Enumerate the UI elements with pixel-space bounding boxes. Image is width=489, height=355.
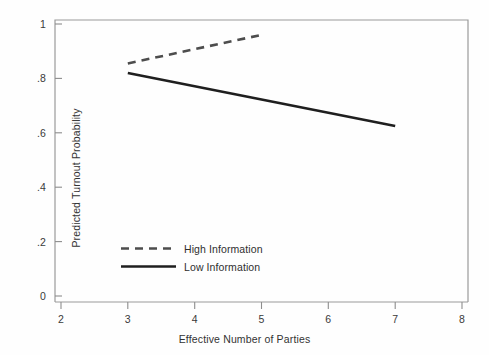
x-tick-label-6: 6 bbox=[325, 313, 331, 325]
y-tick-label-0: 0 bbox=[28, 290, 46, 302]
chart-figure: 1 .8 .6 .4 .2 0 2 3 4 5 6 7 8 Effective … bbox=[0, 0, 489, 355]
x-axis-title: Effective Number of Parties bbox=[0, 333, 489, 345]
y-axis-ticks bbox=[55, 24, 62, 296]
y-tick-label-06: .6 bbox=[28, 127, 46, 139]
x-tick-label-7: 7 bbox=[392, 313, 398, 325]
series-line-low-information bbox=[128, 73, 395, 126]
y-tick-label-1: 1 bbox=[28, 18, 46, 30]
y-tick-label-08: .8 bbox=[28, 72, 46, 84]
x-tick-label-4: 4 bbox=[192, 313, 198, 325]
x-tick-label-3: 3 bbox=[125, 313, 131, 325]
plot-frame bbox=[55, 20, 468, 302]
y-axis-title: Predicted Turnout Probability bbox=[70, 108, 82, 247]
x-tick-label-8: 8 bbox=[459, 313, 465, 325]
legend-label-high-information: High Information bbox=[184, 243, 263, 255]
y-tick-label-04: .4 bbox=[28, 181, 46, 193]
y-tick-label-02: .2 bbox=[28, 236, 46, 248]
legend-label-low-information: Low Information bbox=[184, 261, 260, 273]
series-line-high-information bbox=[128, 35, 262, 64]
x-axis-ticks bbox=[61, 302, 462, 309]
x-tick-label-5: 5 bbox=[259, 313, 265, 325]
x-tick-label-2: 2 bbox=[58, 313, 64, 325]
